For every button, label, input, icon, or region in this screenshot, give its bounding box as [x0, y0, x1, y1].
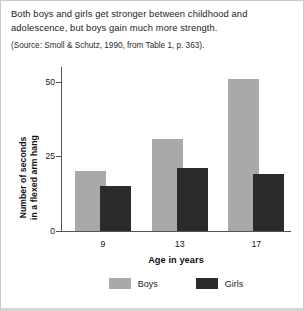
legend-item-girls: Girls	[196, 278, 244, 289]
chart-legend: BoysGirls	[61, 278, 291, 289]
caption-block: Both boys and girls get stronger between…	[11, 7, 289, 51]
y-axis-tick	[56, 82, 61, 83]
bar-girls-17	[253, 174, 284, 231]
y-axis-title-line-1: Number of seconds	[18, 98, 29, 258]
bar-girls-9	[100, 186, 131, 231]
legend-swatch-boys	[109, 278, 131, 289]
x-axis-tick-label: 17	[231, 239, 281, 249]
y-axis-tick	[56, 231, 61, 232]
x-axis-title: Age in years	[61, 255, 291, 265]
legend-swatch-girls	[196, 278, 218, 289]
y-axis-line	[61, 67, 62, 232]
legend-label-girls: Girls	[225, 279, 244, 289]
x-axis-line	[61, 231, 291, 232]
legend-item-boys: Boys	[109, 278, 158, 289]
bar-chart: Number of seconds in a flexed arm hang 0…	[1, 59, 304, 309]
x-axis-tick-label: 9	[78, 239, 128, 249]
y-axis-tick	[56, 156, 61, 157]
x-axis-tick-label: 13	[155, 239, 205, 249]
figure-card: Both boys and girls get stronger between…	[0, 0, 304, 311]
caption-text: Both boys and girls get stronger between…	[11, 7, 289, 34]
plot-area: 0255091317	[61, 67, 291, 232]
y-axis-tick-label: 50	[31, 78, 55, 87]
caption-source: (Source: Smoll & Schutz, 1990, from Tabl…	[11, 40, 289, 51]
bar-girls-13	[177, 168, 208, 231]
y-axis-tick-label: 25	[31, 152, 55, 161]
legend-label-boys: Boys	[138, 279, 158, 289]
y-axis-tick-label: 0	[31, 227, 55, 236]
